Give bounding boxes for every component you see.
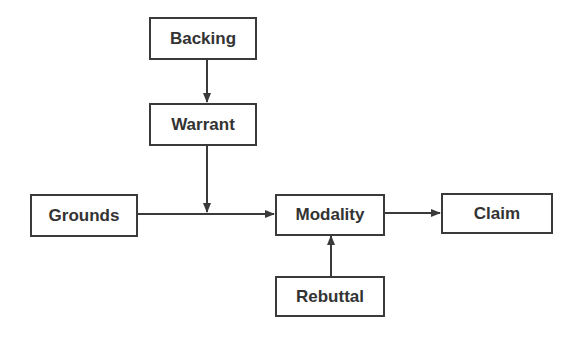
node-grounds: Grounds <box>30 194 138 237</box>
node-label: Backing <box>170 29 236 49</box>
node-label: Modality <box>296 205 365 225</box>
node-warrant: Warrant <box>149 103 257 146</box>
node-label: Rebuttal <box>296 287 364 307</box>
node-claim: Claim <box>441 193 553 234</box>
node-backing: Backing <box>149 17 257 60</box>
node-rebuttal: Rebuttal <box>275 276 385 317</box>
node-label: Claim <box>474 204 520 224</box>
node-label: Grounds <box>49 206 120 226</box>
node-modality: Modality <box>275 194 385 236</box>
node-label: Warrant <box>171 115 235 135</box>
